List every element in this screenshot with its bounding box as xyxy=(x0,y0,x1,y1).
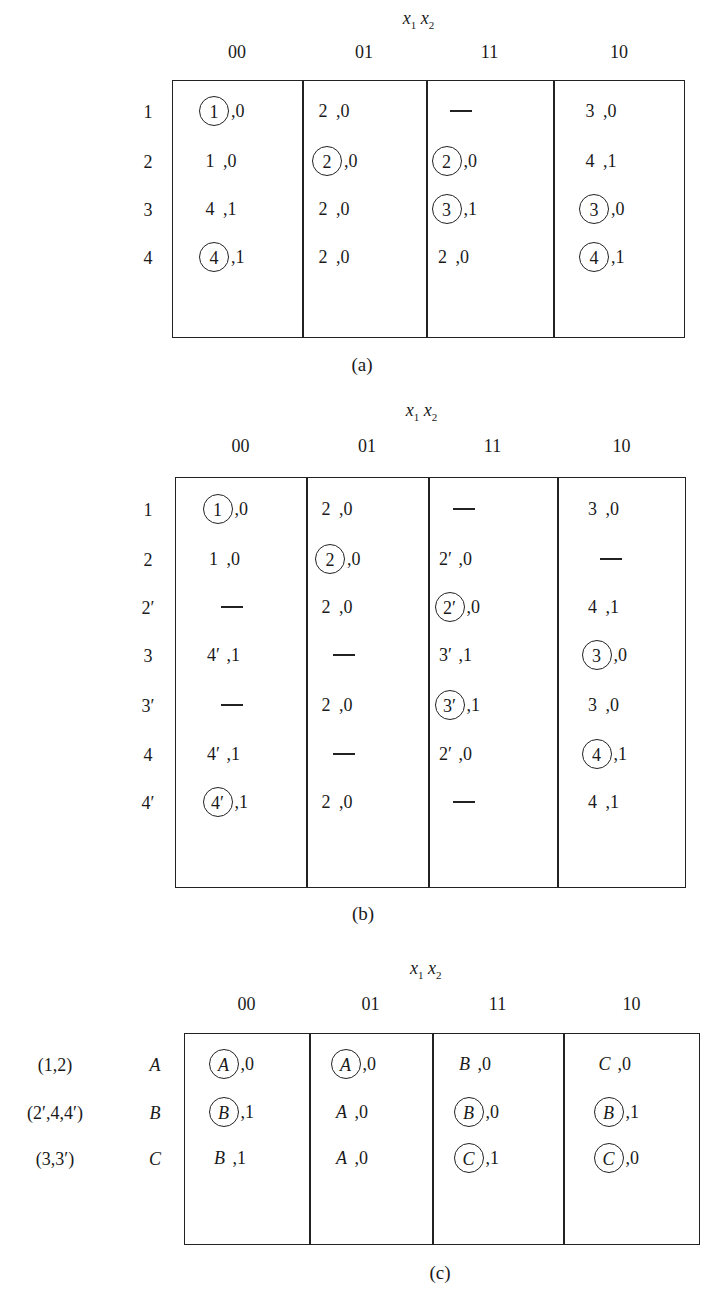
output-value: ,0 xyxy=(344,151,358,172)
output-value: ,0 xyxy=(459,549,473,570)
next-state: 3 xyxy=(582,499,604,520)
table-cell: 1,0 xyxy=(199,96,245,126)
input-variables-label: x1 x2 xyxy=(403,8,435,31)
output-value: ,0 xyxy=(336,247,350,268)
table-cell: 4,1 xyxy=(582,592,620,622)
row-state-label: B xyxy=(135,1103,175,1124)
output-value: ,1 xyxy=(611,247,625,268)
output-value: ,0 xyxy=(456,247,470,268)
output-value: ,0 xyxy=(467,597,481,618)
output-value: ,1 xyxy=(235,792,249,813)
input-variables-label: x1 x2 xyxy=(410,958,442,981)
next-state: 2′ xyxy=(435,744,457,765)
table-cell: B,1 xyxy=(209,1143,247,1173)
column-header: 01 xyxy=(341,994,401,1015)
row-state-label: 4 xyxy=(128,745,168,766)
output-value: ,0 xyxy=(227,549,241,570)
next-state: 2 xyxy=(312,101,334,122)
column-header: 10 xyxy=(602,994,662,1015)
table-cell: 2,0 xyxy=(315,592,353,622)
table-cell: 4,1 xyxy=(199,242,245,272)
table-cell xyxy=(435,494,475,524)
output-value: ,0 xyxy=(486,1102,500,1123)
table-cell: 3,0 xyxy=(579,194,625,224)
column-header: 00 xyxy=(217,994,277,1015)
stable-state-circled: 4 xyxy=(582,739,612,769)
next-state: A xyxy=(331,1102,353,1123)
dont-care-dash xyxy=(453,801,475,803)
output-value: ,1 xyxy=(464,199,478,220)
row-state-label: 3 xyxy=(128,200,168,221)
table-cell: 3′,1 xyxy=(435,690,481,720)
next-state: 2 xyxy=(315,499,337,520)
dont-care-dash xyxy=(221,704,243,706)
next-state: B xyxy=(454,1054,476,1075)
column-divider xyxy=(426,81,428,337)
next-state: 4′ xyxy=(203,645,225,666)
table-cell: 4,1 xyxy=(579,146,617,176)
dont-care-dash xyxy=(453,508,475,510)
stable-state-circled: A xyxy=(331,1049,361,1079)
output-value: ,1 xyxy=(603,151,617,172)
stable-state-circled: C xyxy=(454,1143,484,1173)
table-cell: 4′,1 xyxy=(203,739,241,769)
output-value: ,0 xyxy=(235,499,249,520)
table-cell: A,0 xyxy=(209,1049,255,1079)
next-state: 2 xyxy=(315,695,337,716)
table-cell: 4,1 xyxy=(199,194,237,224)
flow-table-b xyxy=(175,477,686,888)
table-cell: 2,0 xyxy=(312,194,350,224)
table-cell: 3,0 xyxy=(582,640,628,670)
next-state: 1 xyxy=(203,549,225,570)
next-state: 3 xyxy=(579,101,601,122)
table-cell xyxy=(315,640,355,670)
table-cell: 4,1 xyxy=(579,242,625,272)
table-cell: B,1 xyxy=(209,1097,255,1127)
output-value: ,0 xyxy=(606,499,620,520)
table-cell: C,1 xyxy=(454,1143,500,1173)
row-state-label: C xyxy=(135,1149,175,1170)
table-cell: 3′,1 xyxy=(435,640,473,670)
table-cell: A,0 xyxy=(331,1049,377,1079)
stable-state-circled: B xyxy=(454,1097,484,1127)
table-cell: C,0 xyxy=(594,1143,640,1173)
column-divider xyxy=(557,478,559,887)
row-state-label: 2′ xyxy=(128,598,168,619)
stable-state-circled: B xyxy=(209,1097,239,1127)
column-header: 01 xyxy=(334,42,394,63)
table-cell: 2,0 xyxy=(312,242,350,272)
next-state: 2 xyxy=(315,792,337,813)
figure-caption: (c) xyxy=(410,1262,470,1284)
output-value: ,0 xyxy=(464,151,478,172)
output-value: ,0 xyxy=(355,1102,369,1123)
table-cell: 4,1 xyxy=(582,787,620,817)
next-state: A xyxy=(331,1148,353,1169)
output-value: ,0 xyxy=(606,695,620,716)
output-value: ,1 xyxy=(606,792,620,813)
stable-state-circled: 1 xyxy=(203,494,233,524)
next-state: 4 xyxy=(579,151,601,172)
table-cell: A,0 xyxy=(331,1097,369,1127)
output-value: ,0 xyxy=(241,1054,255,1075)
row-state-label: 1 xyxy=(128,500,168,521)
column-header: 11 xyxy=(468,994,528,1015)
table-cell: 4,1 xyxy=(582,739,628,769)
column-header: 11 xyxy=(460,42,520,63)
output-value: ,0 xyxy=(355,1148,369,1169)
table-cell: B,0 xyxy=(454,1097,500,1127)
table-cell: 2,0 xyxy=(432,242,470,272)
row-state-label: 4′ xyxy=(128,793,168,814)
output-value: ,0 xyxy=(339,597,353,618)
figure-caption: (b) xyxy=(333,903,393,925)
table-cell: 2,0 xyxy=(312,96,350,126)
dont-care-dash xyxy=(221,606,243,608)
output-value: ,0 xyxy=(339,695,353,716)
next-state: 2 xyxy=(315,597,337,618)
row-state-label: 2 xyxy=(128,152,168,173)
table-cell: 3,0 xyxy=(582,690,620,720)
table-cell: 2,0 xyxy=(315,494,353,524)
output-value: ,0 xyxy=(603,101,617,122)
column-divider xyxy=(432,1034,434,1244)
next-state: 1 xyxy=(199,151,221,172)
stable-state-circled: B xyxy=(594,1097,624,1127)
